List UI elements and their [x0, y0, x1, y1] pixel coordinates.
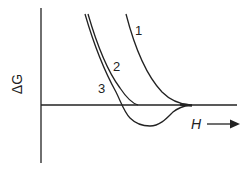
- right-arrow-icon: [207, 120, 240, 129]
- delta-g-vs-h-diagram: ΔG 1 2 3 H: [0, 0, 251, 173]
- curve-2-label: 2: [113, 59, 120, 74]
- curve-1-label: 1: [135, 23, 142, 38]
- y-axis-label: ΔG: [9, 74, 25, 94]
- curve-3-label: 3: [98, 81, 105, 96]
- x-axis-label: H: [191, 116, 202, 132]
